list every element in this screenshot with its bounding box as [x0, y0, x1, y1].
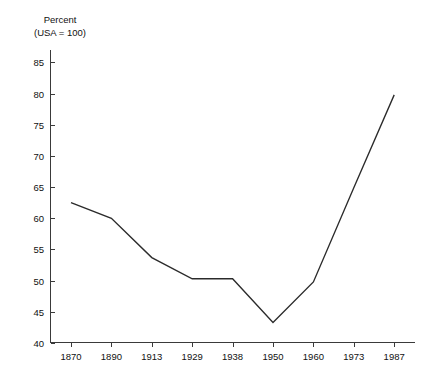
y-tick-label-50: 50 [33, 275, 44, 286]
x-tick-1973 [354, 343, 355, 347]
axis-title: Percent (USA = 100) [6, 14, 114, 39]
y-tick-label-40: 40 [33, 338, 44, 349]
y-tick-label-55: 55 [33, 244, 44, 255]
y-tick-label-80: 80 [33, 88, 44, 99]
x-tick-1938 [233, 343, 234, 347]
x-tick-1960 [313, 343, 314, 347]
x-tick-1929 [192, 343, 193, 347]
y-tick-label-85: 85 [33, 57, 44, 68]
axis-title-line-2: (USA = 100) [6, 27, 114, 40]
y-tick-label-70: 70 [33, 150, 44, 161]
y-tick-label-60: 60 [33, 213, 44, 224]
x-tick-1870 [71, 343, 72, 347]
y-tick-label-75: 75 [33, 119, 44, 130]
y-tick-40 [51, 343, 55, 344]
x-tick-label-1973: 1973 [343, 351, 364, 362]
series-line-percent [71, 95, 394, 323]
x-tick-1987 [394, 343, 395, 347]
x-tick-label-1870: 1870 [60, 351, 81, 362]
x-tick-label-1929: 1929 [182, 351, 203, 362]
x-tick-1890 [111, 343, 112, 347]
x-tick-1913 [152, 343, 153, 347]
x-tick-label-1913: 1913 [141, 351, 162, 362]
y-tick-label-65: 65 [33, 182, 44, 193]
x-tick-label-1938: 1938 [222, 351, 243, 362]
x-tick-label-1950: 1950 [262, 351, 283, 362]
y-tick-label-45: 45 [33, 306, 44, 317]
x-tick-label-1987: 1987 [384, 351, 405, 362]
x-tick-1950 [273, 343, 274, 347]
x-tick-label-1890: 1890 [101, 351, 122, 362]
series-line-chart [50, 50, 415, 343]
chart-figure: Percent (USA = 100) 40455055606570758085… [0, 0, 430, 374]
axis-title-line-1: Percent [6, 14, 114, 27]
x-tick-label-1960: 1960 [303, 351, 324, 362]
plot-area: 40455055606570758085 1870189019131929193… [50, 50, 415, 343]
